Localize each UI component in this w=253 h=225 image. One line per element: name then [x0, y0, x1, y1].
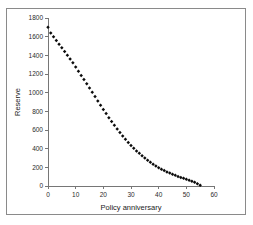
y-tick-label: 0 [39, 182, 43, 189]
x-axis: 0102030405060 [46, 186, 218, 198]
data-point [121, 134, 125, 138]
y-tick-label: 800 [32, 108, 43, 115]
data-point [149, 161, 153, 165]
data-point [66, 54, 70, 58]
data-point [46, 26, 50, 30]
data-point [57, 42, 61, 46]
data-point [110, 120, 114, 124]
y-tick-label: 400 [32, 145, 43, 152]
data-point [154, 164, 158, 168]
data-point [140, 154, 144, 158]
x-tick-label: 0 [46, 191, 50, 198]
data-point [85, 82, 89, 86]
x-tick-label: 10 [72, 191, 80, 198]
x-tick-label: 60 [210, 191, 218, 198]
data-point [55, 39, 59, 43]
data-point [104, 112, 108, 116]
data-point [60, 46, 64, 50]
chart-svg: 020040060080010001200140016001800 010203… [7, 9, 247, 216]
data-point [146, 158, 150, 162]
data-point [52, 35, 56, 39]
data-point [91, 90, 95, 94]
y-tick-label: 1000 [29, 89, 44, 96]
data-point [77, 69, 81, 73]
data-point [102, 108, 106, 112]
data-point [182, 177, 186, 181]
x-tick-label: 20 [100, 191, 108, 198]
data-point [126, 141, 130, 145]
data-point [151, 163, 155, 167]
data-point [79, 74, 83, 78]
data-point [143, 156, 147, 160]
y-tick-label: 1600 [29, 33, 44, 40]
y-tick-label: 600 [32, 126, 43, 133]
data-point [124, 138, 128, 142]
data-point [118, 131, 122, 135]
data-point [138, 152, 142, 156]
x-tick-label: 40 [155, 191, 163, 198]
figure-frame: 020040060080010001200140016001800 010203… [6, 8, 246, 215]
y-axis: 020040060080010001200140016001800 [29, 14, 48, 189]
x-tick-label: 50 [183, 191, 191, 198]
data-point [74, 65, 78, 69]
data-point [49, 31, 53, 35]
data-point [107, 116, 111, 120]
data-point [115, 127, 119, 131]
y-axis-title: Reserve [13, 88, 22, 116]
data-point [185, 178, 189, 182]
y-tick-label: 200 [32, 164, 43, 171]
data-point [96, 99, 100, 103]
data-point [187, 178, 191, 182]
x-axis-title: Policy anniversary [101, 203, 162, 212]
y-tick-label: 1800 [29, 14, 44, 21]
data-point [71, 61, 75, 65]
data-point [63, 50, 67, 54]
data-point-series [46, 26, 202, 187]
data-point [132, 147, 136, 151]
scatter-chart: 020040060080010001200140016001800 010203… [7, 9, 247, 216]
data-point [113, 124, 117, 128]
data-point [99, 103, 103, 107]
data-point [135, 149, 139, 153]
y-tick-label: 1400 [29, 52, 44, 59]
data-point [68, 57, 72, 61]
data-point [88, 86, 92, 90]
y-tick-label: 1200 [29, 70, 44, 77]
data-point [82, 78, 86, 82]
data-point [157, 166, 161, 170]
data-point [93, 95, 97, 99]
data-point [129, 144, 133, 148]
x-tick-label: 30 [127, 191, 135, 198]
